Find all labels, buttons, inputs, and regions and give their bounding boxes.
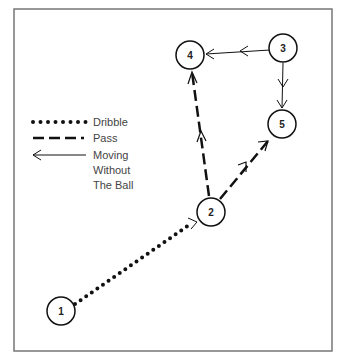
player-4: 4 <box>176 41 204 69</box>
legend-move-label-3: The Ball <box>93 179 133 191</box>
dribble-path-1-to-2 <box>75 223 192 304</box>
legend-move-label-2: Without <box>93 164 130 176</box>
player-5: 5 <box>268 110 296 138</box>
play-diagram: Dribble Pass Moving Without The Ball 1 2… <box>0 0 343 354</box>
player-1: 1 <box>47 297 75 325</box>
pass-path-2-to-5 <box>220 141 268 199</box>
svg-text:2: 2 <box>208 207 214 218</box>
player-2: 2 <box>197 198 225 226</box>
legend-pass-label: Pass <box>93 132 118 144</box>
legend: Dribble Pass Moving Without The Ball <box>33 116 133 191</box>
legend-move-label-1: Moving <box>93 149 128 161</box>
move-path-3-to-4 <box>206 50 270 54</box>
svg-text:1: 1 <box>58 306 64 317</box>
legend-dribble-label: Dribble <box>93 116 128 128</box>
dribble-arrowhead-icon <box>188 218 197 229</box>
player-3: 3 <box>269 34 297 62</box>
svg-text:3: 3 <box>280 43 286 54</box>
svg-text:4: 4 <box>187 50 193 61</box>
svg-text:5: 5 <box>279 119 285 130</box>
